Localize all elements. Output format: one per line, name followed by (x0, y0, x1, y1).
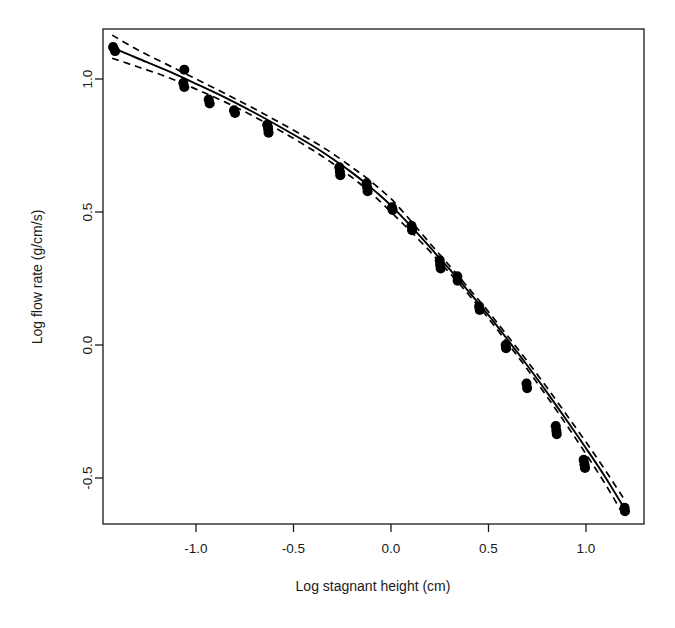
x-tick-label: 0.5 (479, 541, 498, 556)
y-tick-label: 1.0 (80, 70, 95, 89)
data-point (475, 305, 485, 315)
data-point (179, 65, 189, 75)
data-point (453, 276, 463, 286)
x-tick-label: 0.0 (382, 541, 401, 556)
y-tick-label: 0.5 (80, 203, 95, 222)
scatter-plot: -1.0-0.50.00.51.0 -0.50.00.51.0 Log stag… (0, 0, 675, 628)
data-point (230, 108, 240, 118)
data-point (363, 186, 373, 196)
x-axis-title: Log stagnant height (cm) (296, 578, 451, 594)
data-point (335, 170, 345, 180)
data-point (552, 429, 562, 439)
data-point (110, 46, 120, 56)
data-point (620, 506, 630, 516)
data-point (179, 82, 189, 92)
plot-background (0, 0, 675, 628)
data-point (501, 343, 511, 353)
data-point (205, 98, 215, 108)
data-point (263, 128, 273, 138)
y-tick-label: -0.5 (80, 466, 95, 489)
x-tick-label: -1.0 (184, 541, 207, 556)
data-point (580, 463, 590, 473)
figure-container: -1.0-0.50.00.51.0 -0.50.00.51.0 Log stag… (0, 0, 675, 628)
data-point (407, 225, 417, 235)
data-point (436, 263, 446, 273)
data-point (388, 205, 398, 215)
data-point (522, 383, 532, 393)
x-tick-label: -0.5 (282, 541, 305, 556)
y-axis-title: Log flow rate (g/cm/s) (29, 210, 45, 345)
y-tick-label: 0.0 (80, 336, 95, 355)
x-tick-label: 1.0 (577, 541, 596, 556)
